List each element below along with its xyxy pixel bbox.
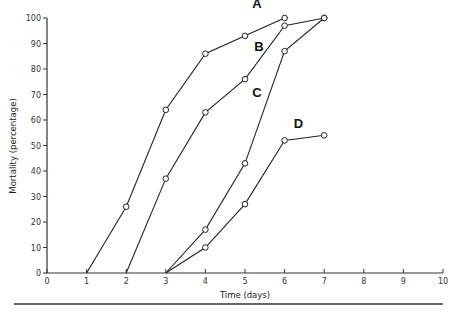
y-tick-label: 60: [31, 116, 41, 125]
data-point-marker: [203, 245, 209, 251]
data-point-marker: [321, 133, 327, 139]
series-b: [126, 15, 327, 273]
x-tick-label: 6: [282, 277, 287, 286]
series-d: [166, 133, 327, 274]
data-point-marker: [163, 176, 169, 182]
data-point-marker: [242, 33, 248, 39]
series-c: [166, 15, 327, 273]
y-axis-title: Mortality (percentage): [8, 98, 18, 193]
data-point-marker: [203, 51, 209, 57]
y-tick-label: 80: [31, 65, 41, 74]
axes: 0123456789100102030405060708090100: [26, 14, 448, 286]
data-point-marker: [282, 15, 288, 21]
x-tick-label: 8: [361, 277, 366, 286]
x-tick-label: 2: [124, 277, 129, 286]
y-tick-label: 0: [36, 269, 41, 278]
x-axis-title: Time (days): [219, 290, 270, 300]
x-tick-label: 5: [242, 277, 247, 286]
x-tick-label: 1: [84, 277, 89, 286]
y-tick-label: 90: [31, 40, 41, 49]
data-point-marker: [282, 138, 288, 144]
series-line: [166, 18, 324, 273]
y-tick-label: 70: [31, 91, 41, 100]
data-point-marker: [242, 201, 248, 207]
data-point-marker: [242, 161, 248, 167]
data-point-marker: [163, 107, 169, 113]
series-line: [126, 18, 324, 273]
series-labels: ABCD: [252, 0, 303, 131]
y-tick-label: 50: [31, 142, 41, 151]
mortality-chart: 0123456789100102030405060708090100 ABCD …: [0, 0, 462, 314]
x-tick-label: 0: [44, 277, 49, 286]
data-point-marker: [123, 204, 129, 210]
y-tick-label: 100: [26, 14, 41, 23]
x-tick-label: 7: [322, 277, 327, 286]
data-point-marker: [282, 23, 288, 29]
series-label-c: C: [252, 85, 262, 100]
x-tick-label: 3: [163, 277, 168, 286]
y-tick-label: 40: [31, 167, 41, 176]
data-point-marker: [203, 227, 209, 233]
x-tick-label: 4: [203, 277, 208, 286]
y-tick-label: 30: [31, 193, 41, 202]
series-label-b: B: [254, 39, 263, 54]
y-tick-label: 20: [31, 218, 41, 227]
series-lines: [87, 15, 327, 273]
data-point-marker: [203, 110, 209, 116]
data-point-marker: [321, 15, 327, 21]
series-label-a: A: [252, 0, 262, 11]
y-tick-label: 10: [31, 244, 41, 253]
data-point-marker: [242, 76, 248, 82]
series-label-d: D: [294, 116, 303, 131]
x-tick-label: 10: [438, 277, 448, 286]
x-tick-label: 9: [401, 277, 406, 286]
data-point-marker: [282, 48, 288, 54]
